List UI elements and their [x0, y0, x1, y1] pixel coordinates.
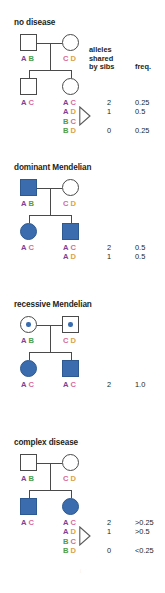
allele-B: B: [28, 199, 34, 208]
parent-right-genotype: CD: [63, 199, 76, 208]
parent-left-symbol: [20, 316, 37, 333]
sib-frequency: >0.25: [135, 518, 154, 527]
descent-line: [50, 188, 51, 216]
parent-left-symbol: [20, 34, 37, 51]
parent-left-symbol: [20, 179, 37, 196]
sib-frequency: 0.25: [135, 98, 149, 107]
sib-genotype-row: BC: [63, 537, 76, 546]
sib-drop-left: [29, 352, 30, 360]
sib-drop-right: [71, 70, 72, 78]
parent-right-symbol: [62, 454, 79, 471]
sib-drop-right: [71, 352, 72, 360]
panel-title: recessive Mendelian: [14, 300, 92, 309]
allele-C: C: [70, 380, 76, 389]
sib-frequency: 0.25: [135, 126, 149, 135]
sib-shared-count: 2: [107, 518, 111, 527]
sib-genotype-row: AC: [63, 98, 76, 107]
sib-genotype-row: AC: [63, 380, 76, 389]
sib-genotype-row: AC: [63, 243, 76, 252]
panel-title: no disease: [14, 18, 55, 27]
sib-drop-left: [29, 490, 30, 498]
allele-C: C: [70, 537, 76, 546]
allele-A: A: [21, 199, 27, 208]
parent-left-symbol: [20, 454, 37, 471]
sib-group-bracket: [79, 106, 91, 130]
allele-C: C: [28, 380, 34, 389]
allele-A: A: [63, 98, 69, 107]
allele-B: B: [63, 117, 69, 126]
allele-B: B: [63, 537, 69, 546]
allele-A: A: [63, 518, 69, 527]
child-right-symbol: [62, 223, 79, 240]
allele-D: D: [70, 107, 76, 116]
allele-C: C: [63, 336, 69, 345]
parent-right-genotype: CD: [63, 54, 76, 63]
allele-A: A: [21, 243, 27, 252]
panel-title: complex disease: [14, 438, 78, 447]
sib-frequency: >0.5: [135, 527, 150, 536]
column-header-freq: freq.: [135, 63, 151, 72]
parent-left-genotype: AB: [21, 199, 34, 208]
allele-C: C: [63, 54, 69, 63]
panel-title: dominant Mendelian: [14, 163, 91, 172]
parent-right-genotype: CD: [63, 474, 76, 483]
allele-C: C: [28, 98, 34, 107]
allele-A: A: [21, 474, 27, 483]
pedigree-panel-4: complex diseaseABCDACAC2>0.25AD1>0.5BCBD…: [0, 438, 165, 578]
sib-genotype-row: AC: [63, 518, 76, 527]
sib-genotype-row: BD: [63, 126, 76, 135]
sib-shared-count: 2: [107, 380, 111, 389]
allele-D: D: [70, 126, 76, 135]
sibship-line: [29, 352, 71, 353]
sib-shared-count: 0: [107, 126, 111, 135]
sib-genotype-row: AD: [63, 107, 76, 116]
sib-shared-count: 0: [107, 546, 111, 555]
parent-right-symbol: [62, 179, 79, 196]
sib-drop-right: [71, 215, 72, 223]
allele-D: D: [70, 336, 76, 345]
child-left-symbol: [20, 360, 37, 377]
pedigree-panel-2: dominant MendelianABCDACAC20.5AD10.5: [0, 163, 165, 303]
child-left-genotype: AC: [21, 380, 34, 389]
column-header-alleles-shared: by sibs: [89, 63, 114, 72]
allele-D: D: [70, 199, 76, 208]
sib-frequency: <0.25: [135, 546, 154, 555]
sib-genotype-row: BD: [63, 546, 76, 555]
parent-left-genotype: AB: [21, 54, 34, 63]
sib-shared-count: 2: [107, 98, 111, 107]
sib-genotype-row: BC: [63, 117, 76, 126]
child-left-symbol: [20, 498, 37, 515]
parent-right-symbol: [62, 34, 79, 51]
allele-B: B: [28, 54, 34, 63]
allele-B: B: [28, 474, 34, 483]
allele-D: D: [70, 546, 76, 555]
parent-left-genotype: AB: [21, 336, 34, 345]
page-watermark: i: [80, 568, 81, 574]
sib-shared-count: 1: [107, 252, 111, 261]
sib-group-bracket: [79, 526, 91, 550]
allele-A: A: [21, 98, 27, 107]
allele-B: B: [28, 336, 34, 345]
child-right-symbol: [62, 360, 79, 377]
sibship-line: [29, 215, 71, 216]
sib-drop-left: [29, 70, 30, 78]
pedigree-panel-1: no diseaseABCDACallelessharedby sibsfreq…: [0, 18, 165, 158]
parent-right-symbol: [62, 316, 79, 333]
allele-C: C: [70, 518, 76, 527]
allele-D: D: [70, 54, 76, 63]
child-right-symbol: [62, 78, 79, 95]
allele-C: C: [70, 98, 76, 107]
parent-right-genotype: CD: [63, 336, 76, 345]
allele-D: D: [70, 474, 76, 483]
allele-B: B: [63, 546, 69, 555]
child-left-symbol: [20, 223, 37, 240]
allele-A: A: [63, 243, 69, 252]
allele-C: C: [28, 243, 34, 252]
sib-genotype-row: AD: [63, 252, 76, 261]
allele-A: A: [63, 380, 69, 389]
sib-frequency: 0.5: [135, 107, 145, 116]
allele-A: A: [63, 252, 69, 261]
allele-A: A: [21, 518, 27, 527]
sib-drop-right: [71, 490, 72, 498]
descent-line: [50, 325, 51, 353]
